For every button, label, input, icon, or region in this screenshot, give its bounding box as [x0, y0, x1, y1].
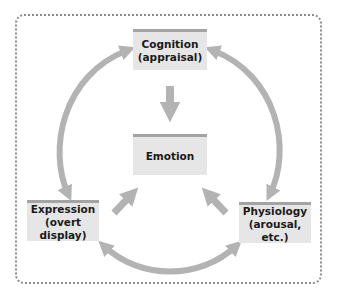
- node-expression-subtitle: (overt display): [27, 216, 99, 242]
- node-physiology-title: Physiology: [243, 205, 307, 218]
- node-physiology-subtitle: (arousal, etc.): [239, 218, 311, 244]
- node-emotion-title: Emotion: [146, 150, 195, 163]
- node-expression: Expression (overt display): [27, 200, 99, 241]
- node-physiology: Physiology (arousal, etc.): [239, 202, 311, 243]
- arrow-expression-emotion: [114, 194, 132, 213]
- arrow-expression-physiology: [104, 246, 236, 272]
- arrow-physiology-emotion: [208, 194, 226, 213]
- node-cognition-title: Cognition: [142, 38, 199, 51]
- node-cognition: Cognition (appraisal): [133, 29, 207, 70]
- arrow-cognition-physiology: [212, 50, 280, 194]
- arrow-cognition-expression: [60, 50, 128, 194]
- node-emotion: Emotion: [133, 134, 207, 175]
- node-expression-title: Expression: [31, 203, 96, 216]
- node-cognition-subtitle: (appraisal): [138, 51, 203, 64]
